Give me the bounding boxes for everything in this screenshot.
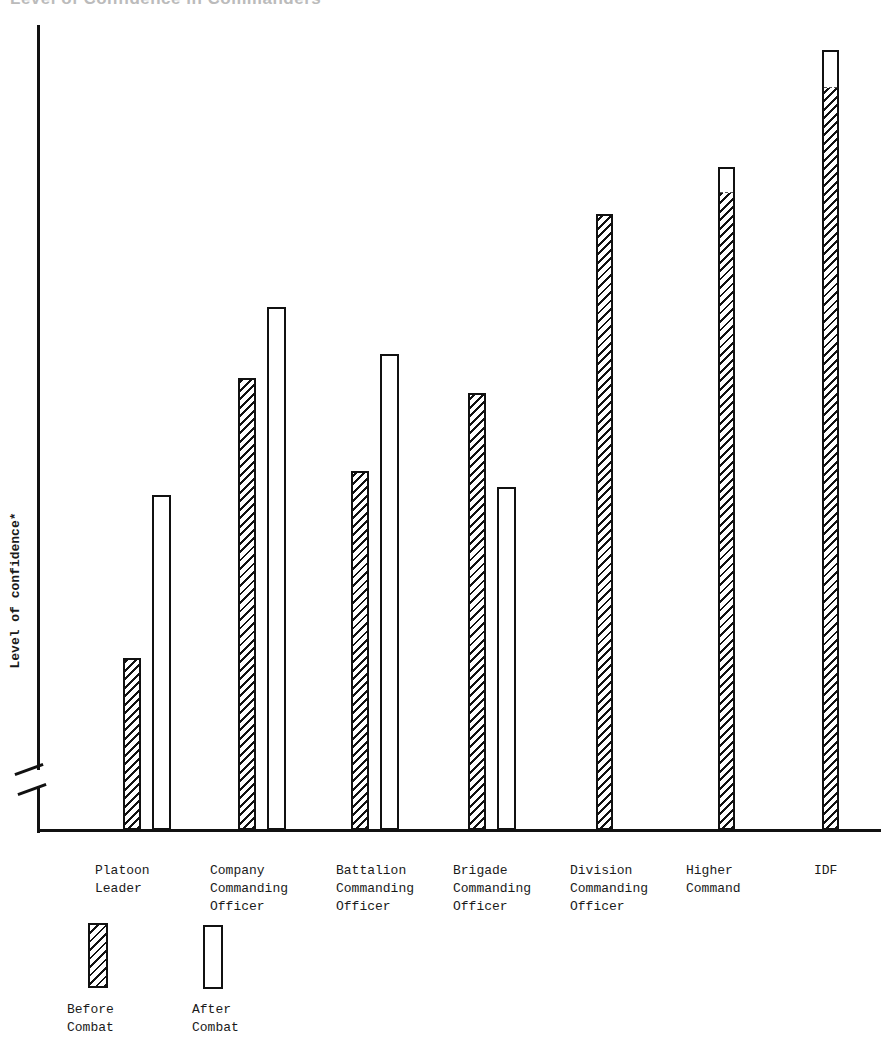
bar-before-combat-2 xyxy=(351,471,369,830)
category-label-company: Company Commanding Officer xyxy=(210,862,288,916)
axis-break-mark xyxy=(17,783,46,796)
category-label-division: Division Commanding Officer xyxy=(570,862,648,916)
category-label-brigade: Brigade Commanding Officer xyxy=(453,862,531,916)
chart-title: Level of Confidence in Commanders xyxy=(10,0,321,9)
bar-before-combat-3 xyxy=(468,393,486,830)
bar-after-combat-1 xyxy=(267,307,286,830)
bar-after-combat-0 xyxy=(152,495,171,830)
legend-label-after: After Combat xyxy=(192,1001,239,1037)
category-label-platoon: Platoon Leader xyxy=(95,862,150,898)
legend-swatch-before xyxy=(88,923,108,988)
bar-before-combat-4 xyxy=(596,214,613,830)
legend-label-before: Before Combat xyxy=(67,1001,114,1037)
y-axis xyxy=(37,25,40,833)
bar-after-combat-2 xyxy=(380,354,399,830)
y-axis-label: Level of confidence* xyxy=(8,506,23,676)
bar-before-combat-0 xyxy=(123,658,141,830)
bar-before-combat-1 xyxy=(238,378,256,830)
category-label-higher: Higher Command xyxy=(686,862,741,898)
category-label-battalion: Battalion Commanding Officer xyxy=(336,862,414,916)
bar-before-combat-5 xyxy=(718,167,735,830)
bar-before-combat-6 xyxy=(822,50,839,830)
bar-after-combat-3 xyxy=(497,487,516,830)
category-label-idf: IDF xyxy=(814,862,837,880)
legend-swatch-after xyxy=(203,925,223,989)
